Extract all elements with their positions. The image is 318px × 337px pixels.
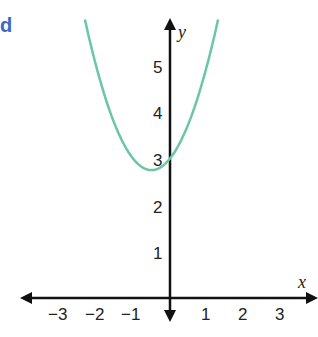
y-axis-label: y [176, 22, 186, 42]
x-tick: 2 [238, 305, 247, 324]
x-tick: 3 [275, 305, 284, 324]
x-tick: −1 [121, 305, 140, 324]
x-tick: 1 [201, 305, 210, 324]
y-tick: 1 [153, 244, 162, 263]
x-axis-label: x [297, 272, 306, 292]
parabola-curve [85, 20, 218, 171]
x-tick: −3 [48, 305, 67, 324]
y-tick: 5 [153, 58, 162, 77]
x-tick: −2 [85, 305, 104, 324]
y-axis-down-arrow-icon [164, 310, 176, 322]
x-axis-right-arrow-icon [306, 292, 318, 304]
graph: y x −3 −2 −1 1 2 3 1 2 3 4 5 [0, 0, 318, 337]
y-tick: 2 [153, 198, 162, 217]
y-axis-up-arrow-icon [164, 18, 176, 30]
y-tick-labels: 1 2 3 4 5 [153, 58, 162, 263]
y-tick: 4 [153, 104, 162, 123]
axes [20, 18, 318, 322]
x-axis-left-arrow-icon [20, 292, 32, 304]
x-tick-labels: −3 −2 −1 1 2 3 [48, 305, 284, 324]
